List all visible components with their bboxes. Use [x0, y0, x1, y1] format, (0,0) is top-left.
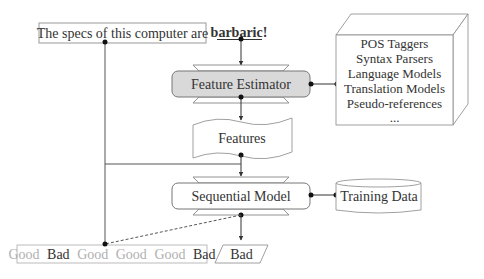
resource-language-models: Language Models: [348, 66, 442, 81]
sequential-model-box: Sequential Model: [172, 183, 310, 209]
training-data-cylinder: Training Data: [336, 179, 421, 213]
resource-translation-models: Translation Models: [344, 81, 445, 96]
label-2: Bad: [47, 247, 70, 262]
previous-labels-box: Good Bad Good Good Good Bad: [8, 245, 215, 263]
connector-dot: [103, 40, 108, 45]
resource-syntax-parsers: Syntax Parsers: [356, 51, 433, 66]
resource-pseudo-references: Pseudo-references: [347, 96, 442, 111]
feature-estimator-box: Feature Estimator: [172, 71, 310, 97]
label-1: Good: [8, 247, 39, 262]
input-sentence-text: The specs of this computer are: [37, 26, 208, 41]
output-label-text: Bad: [230, 247, 253, 262]
sequential-model-label: Sequential Model: [191, 189, 290, 204]
previous-labels-dashed-link: [105, 215, 241, 244]
resource-ellipsis: ...: [390, 110, 400, 125]
connector-dot: [239, 37, 244, 42]
output-label-box: Bad: [215, 245, 268, 263]
feature-estimator-label: Feature Estimator: [191, 77, 291, 92]
features-label: Features: [218, 131, 265, 146]
qe-diagram: The specs of this computer are barbaric!…: [0, 0, 484, 279]
label-3: Good: [77, 247, 108, 262]
label-6: Bad: [193, 247, 216, 262]
resource-pos-taggers: POS Taggers: [361, 36, 429, 51]
training-data-label: Training Data: [340, 189, 418, 204]
resources-box: POS Taggers Syntax Parsers Language Mode…: [336, 14, 468, 125]
input-sentence-box: The specs of this computer are: [37, 23, 208, 43]
features-document: Features: [193, 118, 292, 159]
label-4: Good: [116, 247, 147, 262]
label-5: Good: [154, 247, 185, 262]
